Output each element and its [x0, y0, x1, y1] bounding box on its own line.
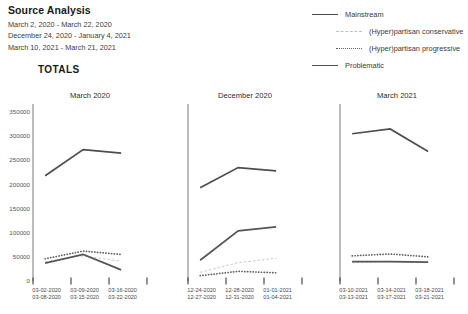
chart-panel: December 202012-24-202012-27-202012-28-2… [187, 91, 302, 300]
date-range-1: March 2, 2020 - March 22, 2020 [8, 19, 268, 30]
x-axis-tick-label: 03-02-2020 [32, 287, 61, 293]
y-axis-tick-label: 200000 [9, 181, 30, 188]
y-axis-tick-label: 250000 [9, 156, 30, 163]
x-axis-tick-label: 03-13-2021 [339, 294, 368, 300]
legend-label-conservative: (Hyper)partisan conservative [369, 27, 463, 36]
x-axis-tick-label: 03-16-2020 [108, 287, 137, 293]
y-axis-tick-label: 50000 [13, 253, 31, 260]
x-axis-tick-label: 03-10-2021 [339, 287, 368, 293]
series-line [352, 254, 428, 257]
x-axis-tick-label: 03-22-2020 [108, 294, 137, 300]
x-axis-tick-label: 12-28-2020 [225, 287, 254, 293]
y-axis-tick-label: 150000 [9, 205, 30, 212]
legend-item-conservative[interactable]: (Hyper)partisan conservative [312, 23, 464, 40]
series-line [200, 227, 276, 260]
legend-item-progressive[interactable]: (Hyper)partisan progressive [312, 40, 464, 57]
report-header: Source Analysis March 2, 2020 - March 22… [8, 4, 268, 53]
x-axis-tick-label: 03-18-2021 [415, 287, 444, 293]
panel-title: December 2020 [218, 91, 272, 100]
panel-title: March 2021 [377, 91, 417, 100]
y-axis-tick-label: 300000 [9, 132, 30, 139]
x-axis-tick-label: 03-08-2020 [32, 294, 61, 300]
legend-label-progressive: (Hyper)partisan progressive [369, 44, 460, 53]
x-axis-tick-label: 01-01-2021 [263, 287, 292, 293]
y-axis-tick-label: 0 [27, 277, 31, 284]
legend-item-mainstream[interactable]: Mainstream [312, 6, 464, 23]
y-axis-tick-label: 100000 [9, 229, 30, 236]
date-range-2: December 24, 2020 - January 4, 2021 [8, 30, 268, 41]
chart-panel: March 202103-10-202103-13-202103-14-2021… [339, 91, 454, 300]
chart-panel: March 202003-02-202003-08-202003-09-2020… [32, 91, 147, 300]
series-line [352, 129, 428, 152]
x-axis-tick-label: 03-09-2020 [70, 287, 99, 293]
series-line [200, 271, 276, 275]
date-range-3: March 10, 2021 - March 21, 2021 [8, 42, 268, 53]
panel-title: March 2020 [70, 91, 110, 100]
series-line [200, 168, 276, 188]
x-axis-tick-label: 01-04-2021 [263, 294, 292, 300]
y-axis-tick-label: 350000 [9, 108, 30, 115]
legend-item-problematic[interactable]: Problematic [312, 57, 464, 74]
x-axis-tick-label: 03-21-2021 [415, 294, 444, 300]
line-swatch-solid-icon [312, 10, 338, 19]
totals-chart: 0500001000001500002000002500003000003500… [0, 88, 468, 314]
section-title-totals: TOTALS [38, 64, 79, 75]
page-title: Source Analysis [8, 4, 268, 17]
series-line [200, 258, 276, 272]
x-axis-tick-label: 03-15-2020 [70, 294, 99, 300]
chart-legend: Mainstream (Hyper)partisan conservative … [312, 6, 464, 74]
line-swatch-dashed-icon [336, 27, 362, 36]
x-axis-tick-label: 12-31-2020 [225, 294, 254, 300]
legend-label-mainstream: Mainstream [345, 10, 384, 19]
x-axis-tick-label: 12-27-2020 [187, 294, 216, 300]
legend-label-problematic: Problematic [345, 61, 384, 70]
x-axis-tick-label: 03-17-2021 [377, 294, 406, 300]
chart-canvas: 0500001000001500002000002500003000003500… [0, 88, 468, 314]
x-axis-tick-label: 03-14-2021 [377, 287, 406, 293]
line-swatch-solid-icon [312, 61, 338, 70]
series-line [45, 150, 121, 176]
line-swatch-dotted-icon [336, 44, 362, 53]
x-axis-tick-label: 12-24-2020 [187, 287, 216, 293]
